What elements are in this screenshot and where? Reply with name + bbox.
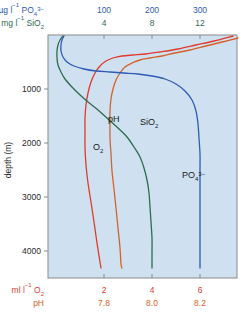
- oxygen-tick-label-2: 6: [198, 285, 203, 295]
- depth-axis-ticks: [44, 89, 48, 251]
- top-axis-unit-labels: µg l−1 PO43− mg l−1 SiO2: [0, 2, 45, 30]
- phosphate-tick-label-2: 300: [193, 5, 207, 15]
- phosphate-tick-labels: 100200300: [97, 5, 207, 15]
- ocean-depth-profile-figure: µg l−1 PO43− mg l−1 SiO2 100200300 4812 …: [0, 0, 245, 323]
- depth-axis-title: depth (m): [3, 142, 13, 179]
- silica-tick-label-1: 8: [150, 18, 155, 28]
- oxygen-tick-label-1: 4: [150, 285, 155, 295]
- plot-background: [48, 35, 237, 278]
- silica-tick-labels: 4812: [102, 18, 205, 28]
- depth-tick-labels: 1000200030004000: [22, 84, 41, 256]
- oxygen-tick-label-0: 2: [102, 285, 107, 295]
- ph-tick-labels: 7.88.08.2: [98, 298, 206, 308]
- ph-tick-label-0: 7.8: [98, 298, 110, 308]
- ph-tick-label-1: 8.0: [146, 298, 158, 308]
- silica-unit-label: mg l−1 SiO2: [1, 15, 44, 30]
- depth-tick-label-0: 1000: [22, 84, 41, 94]
- phosphate-tick-label-1: 200: [145, 5, 159, 15]
- bottom-axis-unit-labels: ml l−1 O2 pH: [12, 282, 45, 308]
- ph-tick-label-2: 8.2: [194, 298, 206, 308]
- silica-tick-label-2: 12: [195, 18, 205, 28]
- chart-svg: µg l−1 PO43− mg l−1 SiO2 100200300 4812 …: [0, 0, 245, 323]
- oxygen-tick-labels: 246: [102, 285, 203, 295]
- phosphate-tick-label-0: 100: [97, 5, 111, 15]
- depth-tick-label-1: 2000: [22, 138, 41, 148]
- silica-tick-label-0: 4: [102, 18, 107, 28]
- depth-tick-label-3: 4000: [22, 246, 41, 256]
- oxygen-unit-label: ml l−1 O2: [12, 282, 45, 297]
- curve-label-ph: pH: [108, 114, 120, 124]
- ph-unit-label: pH: [33, 298, 44, 308]
- depth-tick-label-2: 3000: [22, 192, 41, 202]
